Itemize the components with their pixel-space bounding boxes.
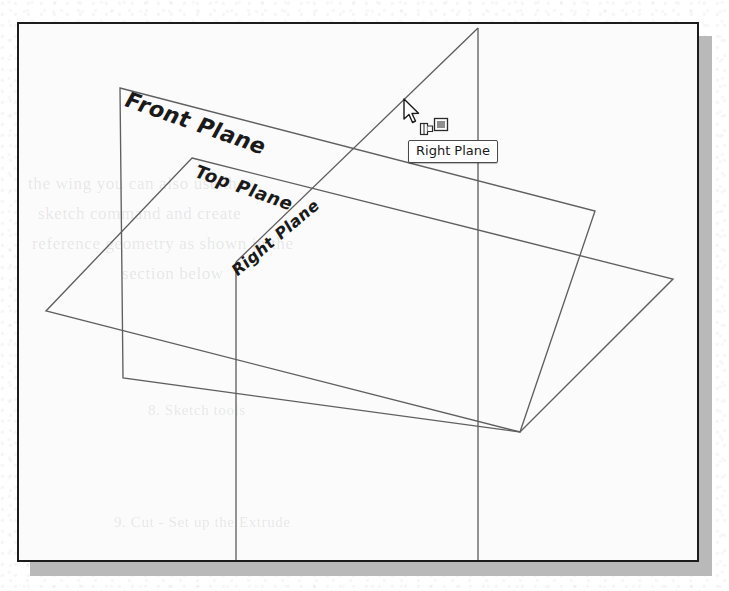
cad-viewport-frame[interactable]: the wing you can also use the sketch com… [17, 22, 699, 562]
plane-tooltip: Right Plane [408, 140, 498, 163]
select-plane-glyph-icon [419, 117, 451, 139]
bleed-through-line: sketch command and create [38, 204, 241, 224]
bleed-through-line: section below [122, 264, 224, 284]
bleed-through-line: 9. Cut - Set up the Extrude [114, 514, 291, 531]
scanned-page: the wing you can also use the sketch com… [0, 0, 729, 591]
bleed-through-line: 8. Sketch tools [148, 402, 246, 419]
